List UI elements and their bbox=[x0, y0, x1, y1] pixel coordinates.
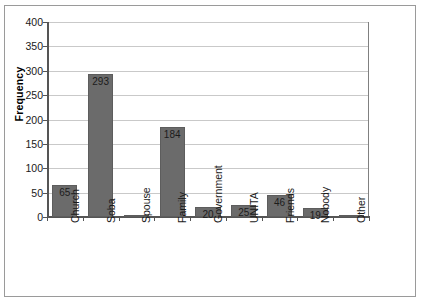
x-axis-tick-mark bbox=[226, 217, 227, 221]
x-axis-category-label: UNITA bbox=[248, 192, 260, 223]
y-axis-tick-label: 400 bbox=[3, 17, 43, 27]
bar-slot: 65 bbox=[52, 22, 77, 217]
x-axis-category-label: Government bbox=[212, 165, 224, 223]
x-axis-category-label: Other bbox=[355, 197, 367, 223]
bar[interactable] bbox=[88, 74, 113, 217]
bar-slot: 293 bbox=[88, 22, 113, 217]
y-axis-ticks: 400350300250200150100500 bbox=[0, 0, 43, 307]
y-axis-tick-label: 300 bbox=[3, 66, 43, 76]
x-axis-category-label: Friends bbox=[284, 188, 296, 223]
x-axis-tick-mark bbox=[119, 217, 120, 221]
y-axis-tick-label: 150 bbox=[3, 139, 43, 149]
x-axis-category-label: Family bbox=[176, 192, 188, 223]
x-axis-tick-mark bbox=[333, 217, 334, 221]
x-axis-tick-mark bbox=[83, 217, 84, 221]
x-axis-tick-mark bbox=[47, 217, 48, 221]
y-axis-tick-label: 0 bbox=[3, 212, 43, 222]
x-axis-tick-mark bbox=[190, 217, 191, 221]
y-axis-tick-label: 200 bbox=[3, 115, 43, 125]
bar-value-label: 184 bbox=[160, 129, 185, 140]
x-axis-category-label: Church bbox=[69, 189, 81, 223]
chart-figure: Frequency 400350300250200150100500 65293… bbox=[0, 0, 422, 307]
x-axis-tick-mark bbox=[262, 217, 263, 221]
y-axis-tick-label: 250 bbox=[3, 90, 43, 100]
x-axis-tick-mark bbox=[369, 217, 370, 221]
bar-slot: 25 bbox=[231, 22, 256, 217]
x-axis-category-label: Spouse bbox=[140, 187, 152, 223]
bar-slot: 184 bbox=[160, 22, 185, 217]
bar-slot bbox=[339, 22, 364, 217]
x-axis-category-label: Nobody bbox=[319, 187, 331, 223]
x-axis-tick-mark bbox=[297, 217, 298, 221]
y-axis-tick-label: 100 bbox=[3, 163, 43, 173]
y-axis-tick-label: 50 bbox=[3, 188, 43, 198]
x-axis-tick-mark bbox=[154, 217, 155, 221]
x-axis-category-label: Soba bbox=[105, 198, 117, 223]
bar-value-label: 293 bbox=[88, 76, 113, 87]
y-axis-tick-label: 350 bbox=[3, 41, 43, 51]
